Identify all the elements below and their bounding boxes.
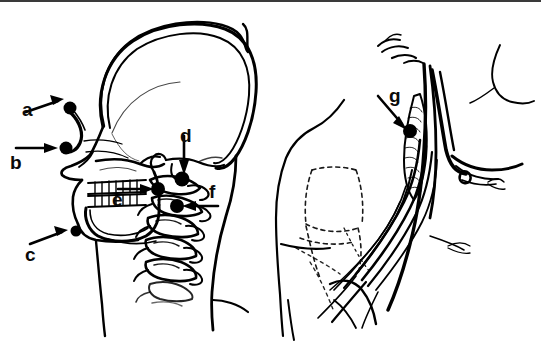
c6-spinous [136,292,150,302]
label-g: g [389,86,401,105]
nasal-profile [61,155,90,180]
label-b: b [10,153,22,172]
arrowhead-f [182,201,196,211]
trapezius-contour [213,300,248,312]
mandible-fragment-1 [378,39,400,46]
clavicle-lower-border [281,244,330,249]
label-a: a [22,100,33,119]
marker-d-dot [175,172,190,187]
scalp-outline [101,22,248,126]
lip-chin-profile [73,180,82,224]
c5-transverse-process [184,270,202,285]
cranium-inner-line [108,33,250,163]
zygomatic-arch [96,159,164,167]
label-f: f [209,182,215,201]
internal-jugular-vein [440,72,454,150]
jawline-curve [470,88,494,103]
marker-a-dot [64,102,77,115]
orbital-floor-line [84,140,122,144]
c4-transverse-process [184,248,202,263]
plexus-cord-6 [334,186,406,290]
temporal-line [112,82,180,133]
anatomical-figure: a b c d e f g [0,0,541,341]
figure-linework [0,0,541,341]
lower-nerve-twig-3 [448,248,470,253]
occiput-faint-line [198,157,222,162]
maxillary-sinus-line [100,167,136,171]
arrowhead-b [44,143,58,153]
anterior-neck-contour [96,241,105,336]
dashed-bone-outline [300,167,363,278]
landmark-markers [60,102,418,237]
subclavian-artery [452,156,522,170]
marker-g-dot [403,124,417,138]
vertebra-c7-faint [152,302,182,306]
vertebra-c6 [149,282,192,301]
label-c: c [25,245,36,264]
arm-medial-contour [288,300,294,340]
facial-profile-curve [492,45,534,103]
marker-e-dot [151,182,165,196]
marker-b-dot [60,142,73,155]
label-e: e [112,190,123,209]
label-d: d [180,126,192,145]
marker-c-dot [71,226,82,237]
mandible-fragment-4 [404,61,423,63]
marker-f-dot [170,199,184,213]
mandible-fragment-3 [392,55,416,58]
suprascapular-twig-2 [488,184,505,189]
mandible-fragment-2 [382,46,408,52]
